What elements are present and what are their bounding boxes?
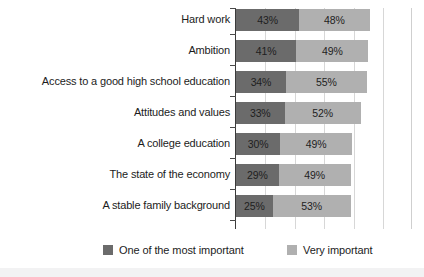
category-label-college: A college education [137,132,230,154]
bar-row: 25%53% [236,195,351,217]
bar-row: 30%49% [236,133,352,155]
category-label-attitudes-values: Attitudes and values [134,101,230,123]
category-axis-labels: Hard work Ambition Access to a good high… [0,8,230,229]
category-label-hard-work: Hard work [181,8,230,30]
bar-value-label: 25% [244,200,265,212]
bar-row: 33%52% [236,102,361,124]
bar-value-label: 49% [322,45,343,57]
category-label-ambition: Ambition [188,39,230,61]
bar-row: 43%48% [236,9,370,31]
bar-segment-very-important: 55% [286,71,367,93]
bar-value-label: 48% [324,14,345,26]
bar-row: 41%49% [236,40,368,62]
category-label-school-education: Access to a good high school education [42,70,230,92]
bar-segment-most-important: 41% [236,40,296,62]
bar-value-label: 41% [256,45,277,57]
bar-value-label: 34% [251,76,272,88]
page-bottom-band [0,268,424,277]
bar-segment-very-important: 52% [285,102,361,124]
chart-legend: One of the most important Very important [0,240,424,260]
bar-segment-most-important: 29% [236,164,279,186]
bar-segment-most-important: 33% [236,102,285,124]
bar-value-label: 29% [247,169,268,181]
plot-area: 43%48%41%49%34%55%33%52%30%49%29%49%25%5… [236,8,412,229]
legend-label-most-important: One of the most important [119,244,244,256]
bar-value-label: 53% [301,200,322,212]
bar-row: 29%49% [236,164,351,186]
bar-segment-most-important: 43% [236,9,299,31]
legend-label-very-important: Very important [303,244,373,256]
bar-segment-very-important: 53% [273,195,351,217]
bar-value-label: 52% [312,107,333,119]
bar-value-label: 30% [248,138,269,150]
bar-value-label: 49% [306,138,327,150]
bar-segment-very-important: 49% [296,40,368,62]
bar-segment-most-important: 30% [236,133,280,155]
bar-segment-very-important: 48% [299,9,370,31]
legend-item-most-important: One of the most important [103,240,244,260]
category-label-economy: The state of the economy [109,163,230,185]
bar-segment-very-important: 49% [280,133,352,155]
category-label-family: A stable family background [102,194,230,216]
bar-value-label: 55% [316,76,337,88]
bar-rows: 43%48%41%49%34%55%33%52%30%49%29%49%25%5… [236,8,412,229]
bar-segment-most-important: 25% [236,195,273,217]
bar-value-label: 43% [257,14,278,26]
bar-value-label: 49% [304,169,325,181]
bar-segment-most-important: 34% [236,71,286,93]
bar-value-label: 33% [250,107,271,119]
bar-segment-very-important: 49% [279,164,351,186]
legend-item-very-important: Very important [287,240,373,260]
bar-row: 34%55% [236,71,367,93]
chart-figure: Hard work Ambition Access to a good high… [0,0,424,277]
legend-swatch-icon-light [287,245,297,255]
legend-swatch-icon-dark [103,245,113,255]
